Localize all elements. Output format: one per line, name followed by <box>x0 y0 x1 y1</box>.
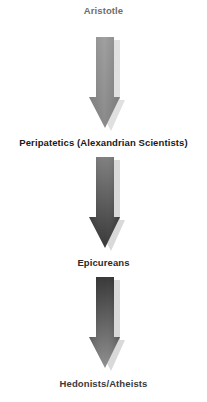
down-arrow-icon <box>85 277 125 370</box>
node-aristotle: Aristotle <box>0 5 207 16</box>
node-peripatetics: Peripatetics (Alexandrian Scientists) <box>0 137 207 148</box>
node-epicureans: Epicureans <box>0 257 207 268</box>
node-hedonists-atheists: Hedonists/Atheists <box>0 378 207 389</box>
down-arrow-icon <box>85 157 125 250</box>
down-arrow-icon <box>85 37 125 130</box>
